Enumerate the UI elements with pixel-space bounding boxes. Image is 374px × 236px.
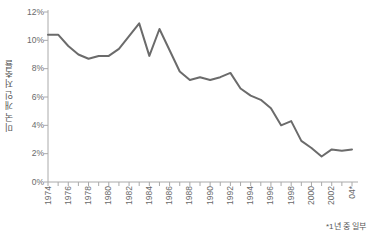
x-tick-label: 1988: [185, 186, 194, 205]
x-tick-label: 1994: [246, 186, 255, 205]
x-tick-label: 1978: [84, 186, 93, 205]
x-tick-label: 04*: [348, 186, 357, 199]
footnote: *1년 중 일부: [326, 220, 366, 231]
x-tick-label: 2000: [307, 186, 316, 205]
x-tick-label: 1990: [206, 186, 215, 205]
x-tick-label: 1976: [64, 186, 73, 205]
x-tick-label: 1996: [266, 186, 275, 205]
data-series-line: [48, 23, 352, 156]
x-tick-label: 1982: [125, 186, 134, 205]
savings-rate-chart: 미국 개인 저축률 0%2%4%6%8%10%12% 1974197619781…: [0, 0, 374, 236]
x-tick-label: 1974: [44, 186, 53, 205]
x-tick-label: 1980: [104, 186, 113, 205]
x-axis-tick-labels: 1974197619781980198219841986198819901992…: [0, 186, 374, 222]
x-tick-label: 1998: [287, 186, 296, 205]
x-tick-label: 1992: [226, 186, 235, 205]
x-tick-label: 2002: [327, 186, 336, 205]
axes: [48, 10, 358, 182]
x-tick-label: 1986: [165, 186, 174, 205]
x-tick-label: 1984: [145, 186, 154, 205]
series-line-0: [48, 23, 352, 156]
axis-ticks: [44, 12, 352, 186]
